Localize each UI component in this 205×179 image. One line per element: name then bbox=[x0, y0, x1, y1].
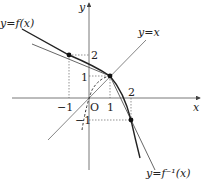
f-label: y=f(x) bbox=[0, 17, 34, 30]
point-1-1 bbox=[108, 74, 113, 79]
y-axis-label: y bbox=[78, 1, 86, 14]
tick-y-2: 2 bbox=[91, 49, 98, 62]
tick-y-1: 1 bbox=[81, 71, 88, 84]
tick-y-neg1: −1 bbox=[75, 114, 91, 127]
tangent-line-upper bbox=[32, 44, 110, 76]
tick-x-1: 1 bbox=[107, 101, 114, 114]
function-graph: y x O −1 1 2 2 1 −1 y=f(x) y=x y=f⁻¹(x) bbox=[0, 0, 205, 179]
point-2-neg1 bbox=[129, 118, 134, 123]
point-neg1-2 bbox=[67, 53, 72, 58]
x-axis-label: x bbox=[193, 101, 200, 114]
curve-f bbox=[22, 29, 140, 158]
tick-x-2: 2 bbox=[128, 86, 135, 99]
tick-x-neg1: −1 bbox=[57, 101, 73, 114]
origin-label: O bbox=[90, 101, 99, 114]
finv-label: y=f⁻¹(x) bbox=[145, 167, 191, 179]
identity-label: y=x bbox=[137, 26, 160, 39]
